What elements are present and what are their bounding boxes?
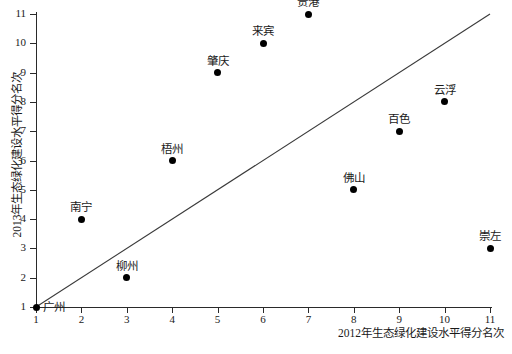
y-tick-mark (30, 73, 36, 74)
x-tick-label: 10 (434, 314, 456, 325)
data-point[interactable] (350, 186, 357, 193)
scatter-chart-figure: 1234567891011 1234567891011 广州南宁柳州梧州肇庆来宾… (0, 0, 512, 354)
data-point[interactable] (305, 11, 312, 18)
data-point-label: 肇庆 (207, 55, 229, 67)
data-point-label: 广州 (43, 301, 65, 313)
y-tick-mark (30, 102, 36, 103)
data-point-label: 云浮 (434, 84, 456, 96)
data-point[interactable] (169, 157, 176, 164)
data-point[interactable] (214, 69, 221, 76)
x-tick-label: 5 (207, 314, 229, 325)
x-axis-line (36, 307, 492, 308)
data-point[interactable] (33, 304, 40, 311)
data-point[interactable] (260, 40, 267, 47)
y-tick-mark (30, 131, 36, 132)
data-point[interactable] (396, 128, 403, 135)
x-tick-label: 9 (388, 314, 410, 325)
x-tick-label: 4 (161, 314, 183, 325)
x-axis-title: 2012年生态绿化建设水平得分名次 (338, 327, 504, 340)
data-point-label: 百色 (388, 113, 410, 125)
y-tick-mark (30, 278, 36, 279)
data-point[interactable] (487, 245, 494, 252)
y-tick-label: 1 (8, 301, 26, 312)
reference-line-y-equals-x (0, 0, 512, 354)
data-point-label: 贵港 (297, 0, 319, 8)
data-point-label: 崇左 (479, 230, 501, 242)
y-tick-mark (30, 190, 36, 191)
data-point-label: 南宁 (70, 201, 92, 213)
y-tick-mark (30, 43, 36, 44)
x-tick-label: 7 (297, 314, 319, 325)
data-point[interactable] (441, 98, 448, 105)
data-point[interactable] (123, 274, 130, 281)
x-tick-label: 6 (252, 314, 274, 325)
data-point-label: 梧州 (161, 143, 183, 155)
x-tick-label: 3 (116, 314, 138, 325)
x-tick-label: 2 (70, 314, 92, 325)
y-tick-mark (30, 219, 36, 220)
y-axis-title: 2013年生态绿化建设水平得分名次 (11, 15, 24, 295)
y-tick-mark (30, 14, 36, 15)
y-axis-line (36, 12, 37, 308)
data-point-label: 来宾 (252, 25, 274, 37)
x-tick-label: 11 (479, 314, 501, 325)
data-point-label: 柳州 (116, 260, 138, 272)
x-tick-label: 1 (25, 314, 47, 325)
x-tick-label: 8 (343, 314, 365, 325)
y-tick-mark (30, 248, 36, 249)
data-point[interactable] (78, 216, 85, 223)
data-point-label: 佛山 (343, 172, 365, 184)
y-tick-mark (30, 161, 36, 162)
